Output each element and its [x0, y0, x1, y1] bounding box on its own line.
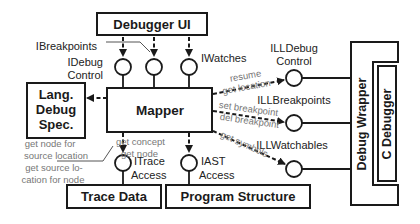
- ibreakpoints-label: IBreakpoints: [36, 40, 98, 52]
- illbreakpoints-interface: [286, 115, 302, 131]
- idebug-label-2: Control: [68, 69, 103, 81]
- svg-text:Mapper: Mapper: [136, 103, 185, 118]
- iast-label-2: Access: [199, 169, 235, 181]
- svg-text:Lang.: Lang.: [39, 87, 74, 102]
- illdebug-control-interface: [286, 70, 302, 86]
- source-loc-annotation-1: get node for: [25, 138, 76, 149]
- get-concept-annotation: get concept: [116, 136, 165, 147]
- svg-text:Trace Data: Trace Data: [81, 189, 148, 204]
- program-structure-box: Program Structure: [166, 185, 310, 208]
- svg-text:Debugger UI: Debugger UI: [113, 17, 190, 32]
- illbreakpoints-label: ILLBreakpoints: [257, 94, 331, 106]
- svg-text:Spec.: Spec.: [39, 117, 74, 132]
- mapper-box: Mapper: [107, 88, 212, 132]
- iast-access-interface: [181, 155, 197, 171]
- svg-text:Debug Wrapper: Debug Wrapper: [355, 77, 369, 170]
- idebug-control-interface: [115, 59, 131, 75]
- source-loc-annotation-4: cation for node: [22, 174, 85, 185]
- source-loc-annotation-2: source location: [24, 150, 88, 161]
- illdebug-label-1: ILLDebug: [270, 42, 318, 54]
- trace-data-box: Trace Data: [67, 185, 161, 208]
- debugger-ui-box: Debugger UI: [97, 13, 207, 35]
- iwatches-interface: [181, 59, 197, 75]
- svg-text:C Debugger: C Debugger: [380, 88, 394, 159]
- illdebug-label-2: Control: [276, 55, 311, 67]
- architecture-diagram: Debugger UI IBreakpoints IDebug Control …: [0, 0, 420, 224]
- itrace-label-2: Access: [131, 169, 167, 181]
- svg-text:Program Structure: Program Structure: [181, 189, 296, 204]
- iwatches-label: IWatches: [201, 52, 247, 64]
- idebug-label-1: IDebug: [68, 56, 103, 68]
- c-debugger-box: C Debugger: [378, 66, 396, 181]
- ibreakpoints-interface: [146, 59, 162, 75]
- svg-text:Debug: Debug: [36, 102, 77, 117]
- source-loc-annotation-3: get source lo-: [25, 162, 83, 173]
- iast-label-1: IAST: [201, 155, 226, 167]
- get-node-annotation: get node: [121, 148, 158, 159]
- lang-debug-spec-box: Lang. Debug Spec.: [27, 83, 85, 138]
- illwatchables-interface: [286, 161, 302, 177]
- ibreakpoints-leader: [106, 42, 150, 52]
